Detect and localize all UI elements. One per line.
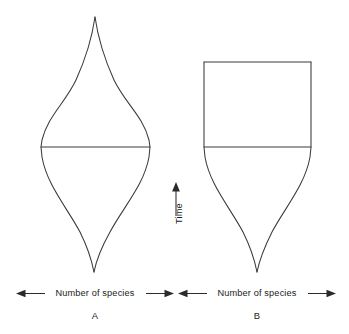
panel-a-right-outline [94, 17, 150, 272]
panel-b-right-outline [257, 62, 311, 272]
figure-root: Time Number of species A Number of speci… [0, 0, 349, 334]
panel-b-group [204, 62, 311, 272]
panel-a-letter: A [92, 310, 99, 321]
panel-a-axis-label: Number of species [55, 288, 134, 298]
arrow-right-icon-a [165, 290, 175, 298]
panel-b-letter: B [254, 310, 260, 321]
diagram-canvas: Time Number of species A Number of speci… [0, 0, 349, 334]
panel-b-left-outline [204, 62, 257, 272]
panel-a-group [41, 17, 150, 272]
arrow-up-icon [172, 182, 180, 192]
panel-b-axis-label: Number of species [217, 288, 296, 298]
time-axis-group: Time [172, 182, 184, 224]
time-axis-label: Time [174, 203, 184, 224]
panel-b-axis-group: Number of species B [178, 288, 336, 322]
panel-a-axis-group: Number of species A [16, 288, 174, 322]
arrow-right-icon-b [327, 290, 337, 298]
panel-a-left-outline [41, 17, 95, 272]
